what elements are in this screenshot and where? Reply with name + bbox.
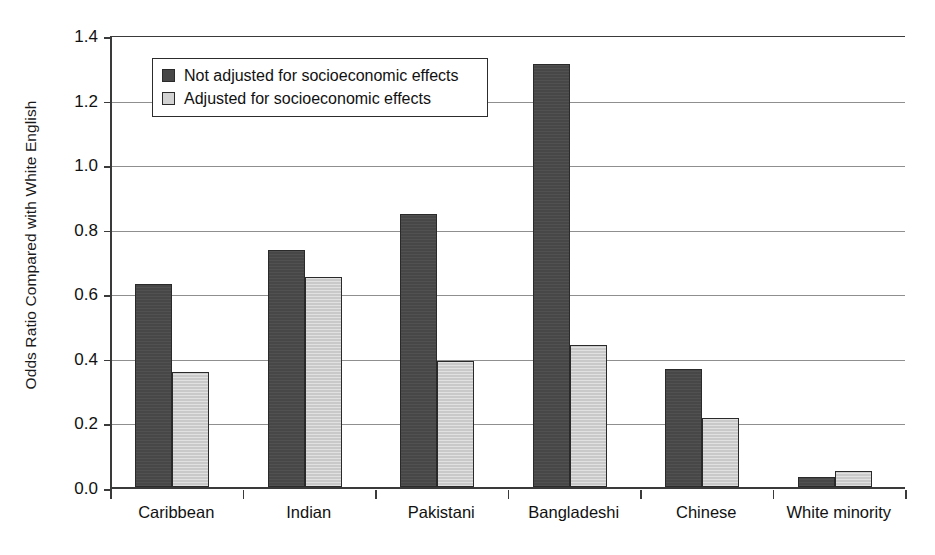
x-axis-tick [375,490,377,499]
bar [835,471,872,487]
bar [533,64,570,487]
x-axis-tick [243,490,245,499]
legend: Not adjusted for socioeconomic effects A… [152,58,488,117]
legend-swatch-icon [162,69,175,82]
legend-item: Adjusted for socioeconomic effects [162,87,478,110]
y-axis-tick-label: 1.2 [36,92,98,112]
x-axis-tick [110,490,112,499]
y-axis-tick [104,360,112,362]
y-axis-tick [104,166,112,168]
y-axis-tick [104,231,112,233]
y-axis-tick [104,37,112,39]
x-axis-category-label: White minority [786,503,891,522]
bar [665,369,702,487]
bar [798,477,835,487]
x-axis-category-label: Caribbean [138,503,214,522]
x-axis-tick [905,490,907,499]
x-axis-tick [508,490,510,499]
bar [305,277,342,487]
bar [570,345,607,487]
bar [702,418,739,487]
legend-item: Not adjusted for socioeconomic effects [162,64,478,87]
y-axis-tick-label: 1.0 [36,156,98,176]
bar [400,214,437,487]
y-axis-tick-label: 0.6 [36,285,98,305]
x-axis-category-label: Indian [286,503,331,522]
x-axis-tick [640,490,642,499]
x-axis-tick [773,490,775,499]
y-axis-tick-label: 0.4 [36,350,98,370]
bar [437,361,474,487]
y-axis-tick-label: 1.4 [36,27,98,47]
y-axis-tick-label: 0.0 [36,479,98,499]
bar [172,372,209,487]
y-axis-tick-label: 0.8 [36,221,98,241]
x-axis-category-label: Chinese [676,503,737,522]
y-axis-tick [104,102,112,104]
legend-item-label: Not adjusted for socioeconomic effects [184,68,459,84]
y-axis-tick-label: 0.2 [36,414,98,434]
bar-chart: Odds Ratio Compared with White English 0… [0,0,935,555]
y-axis-tick [104,295,112,297]
legend-swatch-icon [162,92,175,105]
x-axis-category-label: Pakistani [408,503,475,522]
y-axis-tick [104,424,112,426]
bar [268,250,305,487]
x-axis-category-label: Bangladeshi [528,503,619,522]
legend-item-label: Adjusted for socioeconomic effects [184,91,431,107]
bar [135,284,172,487]
